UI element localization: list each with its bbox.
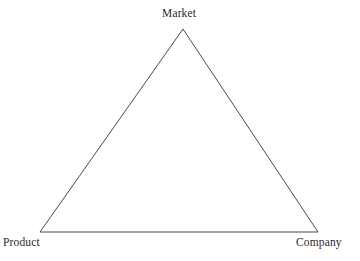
triangle-outline	[40, 29, 318, 232]
vertex-label-market: Market	[162, 7, 196, 20]
triangle-shape	[0, 0, 360, 261]
vertex-label-company: Company	[296, 236, 342, 249]
vertex-label-product: Product	[3, 236, 40, 249]
triangle-diagram-figure: Market Product Company	[0, 0, 360, 261]
